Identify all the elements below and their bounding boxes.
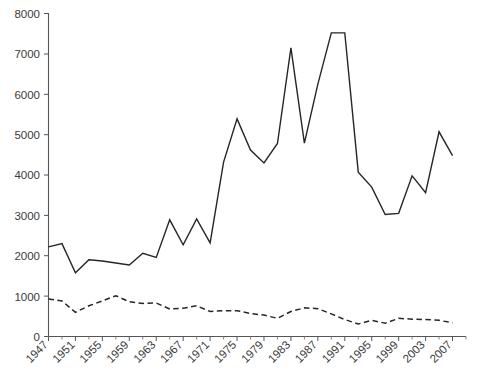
y-tick-marks	[44, 14, 49, 337]
x-tick-label-1947: 1947	[23, 338, 50, 365]
x-tick-label-1955: 1955	[77, 338, 104, 365]
x-tick-label-1987: 1987	[293, 338, 320, 365]
y-tick-label-1000: 1000	[14, 291, 40, 303]
y-tick-label-7000: 7000	[14, 48, 40, 60]
x-tick-label-1979: 1979	[239, 338, 266, 365]
x-tick-labels: 1947195119551959196319671971197519791983…	[23, 338, 454, 365]
x-tick-label-1959: 1959	[104, 338, 131, 365]
series-line-solid-series	[49, 33, 453, 273]
y-tick-labels: 8000 7000 6000 5000 4000 3000 2000 1000 …	[14, 8, 40, 343]
series-group	[49, 33, 453, 324]
x-tick-label-1951: 1951	[50, 338, 77, 365]
figure-container: 8000 7000 6000 5000 4000 3000 2000 1000 …	[0, 0, 479, 383]
x-tick-label-2007: 2007	[427, 338, 454, 365]
y-tick-label-4000: 4000	[14, 169, 40, 181]
x-tick-label-1991: 1991	[320, 338, 347, 365]
x-tick-label-1963: 1963	[131, 338, 158, 365]
x-tick-label-1967: 1967	[158, 338, 185, 365]
y-tick-label-3000: 3000	[14, 210, 40, 222]
line-chart: 8000 7000 6000 5000 4000 3000 2000 1000 …	[0, 0, 479, 383]
y-tick-label-2000: 2000	[14, 250, 40, 262]
axes-group	[49, 13, 467, 337]
y-tick-label-5000: 5000	[14, 129, 40, 141]
x-tick-label-1995: 1995	[347, 338, 374, 365]
y-tick-label-8000: 8000	[14, 8, 40, 20]
x-tick-label-1975: 1975	[212, 338, 239, 365]
x-tick-label-1971: 1971	[185, 338, 212, 365]
x-tick-label-2003: 2003	[400, 338, 427, 365]
series-line-dashed-series	[49, 296, 453, 324]
x-tick-label-1999: 1999	[373, 338, 400, 365]
x-tick-label-1983: 1983	[266, 338, 293, 365]
y-tick-label-6000: 6000	[14, 89, 40, 101]
